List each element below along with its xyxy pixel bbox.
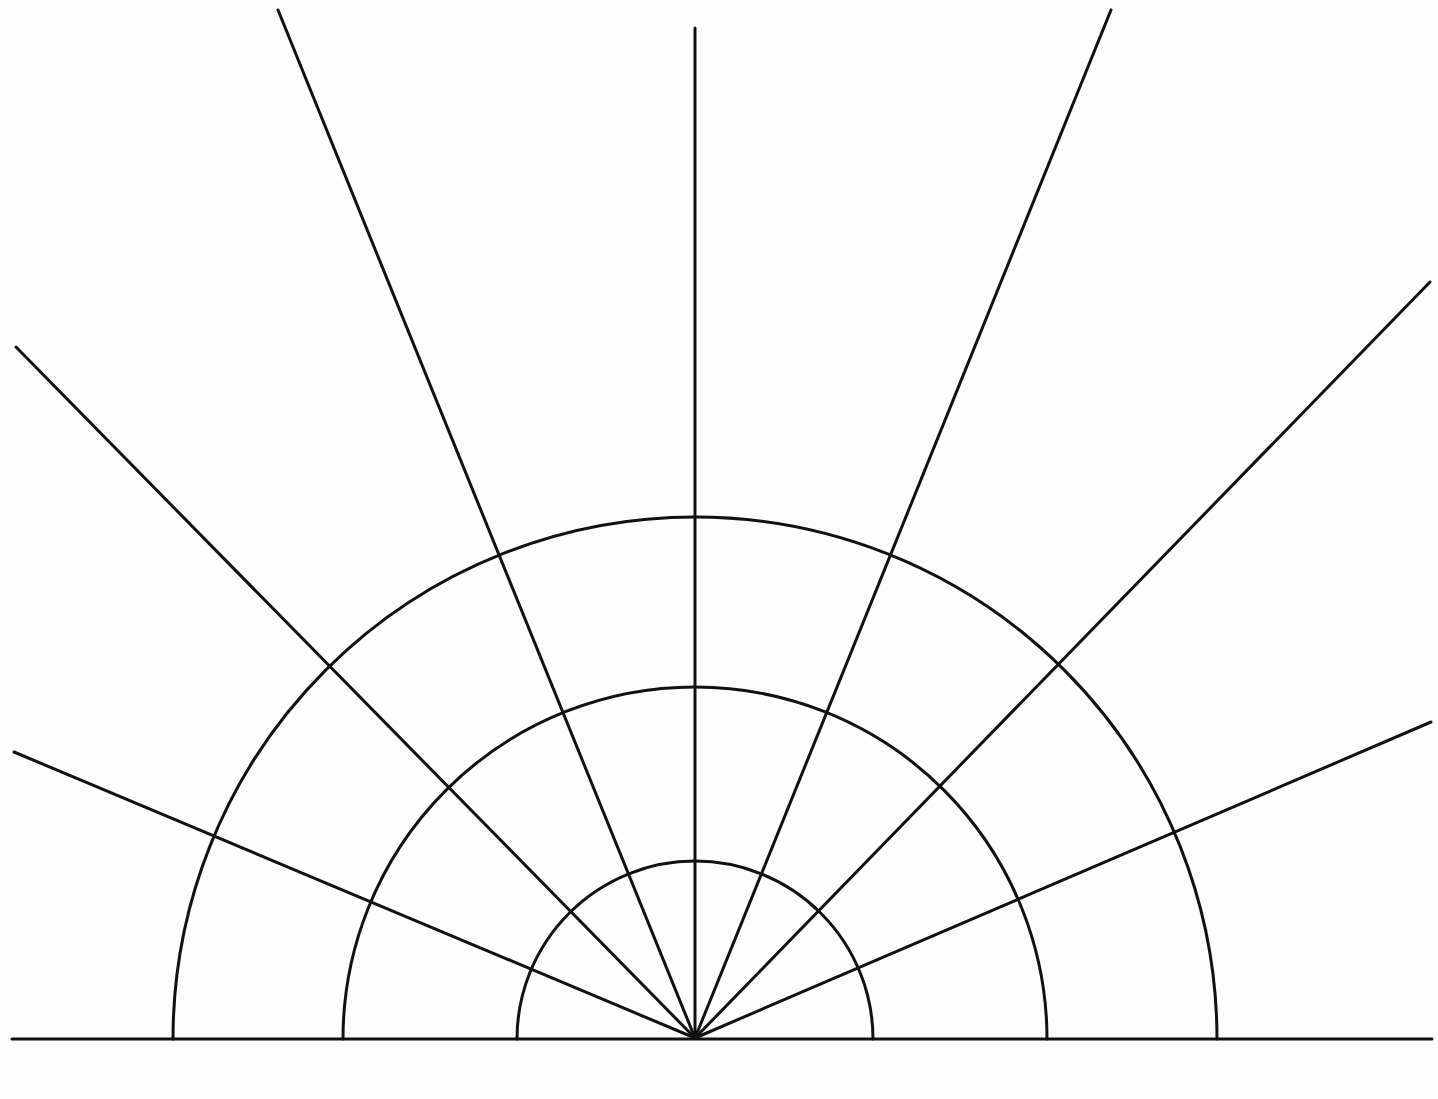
ray-right-mid: [695, 282, 1430, 1038]
ray-right-low: [695, 722, 1431, 1038]
ray-right-high: [695, 10, 1111, 1038]
polar-grid-diagram: [0, 0, 1438, 1099]
ray-left-mid: [16, 347, 695, 1038]
diagram-canvas: [0, 0, 1438, 1099]
ray-left-high: [278, 10, 695, 1038]
radial-rays: [14, 10, 1431, 1038]
